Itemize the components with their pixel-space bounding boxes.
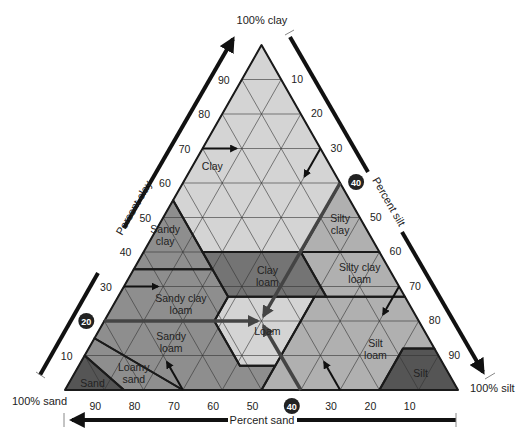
region-label-silty-clay: Siltyclay: [330, 212, 351, 236]
region-label-loam: Loam: [254, 325, 281, 337]
svg-text:40: 40: [351, 178, 361, 188]
silt-tick-70: 70: [409, 280, 421, 292]
vertex-label-silt: 100% silt: [470, 382, 515, 394]
silt-tick-30: 30: [331, 142, 343, 154]
region-label-clay-loam: Clayloam: [256, 264, 279, 288]
sand-tick-70: 70: [168, 400, 180, 412]
svg-text:40: 40: [287, 402, 297, 412]
sand-tick-90: 90: [89, 400, 101, 412]
sand-tick-60: 60: [207, 400, 219, 412]
clay-tick-30: 30: [100, 281, 112, 293]
svg-text:20: 20: [81, 317, 91, 327]
sand-tick-10: 10: [404, 400, 416, 412]
silt-tick-10: 10: [291, 73, 303, 85]
soil-texture-triangle: ClaySiltyclaySandyclayClayloamSilty clay…: [0, 0, 531, 443]
vertex-label-clay: 100% clay: [237, 14, 288, 26]
silt-tick-20: 20: [311, 107, 323, 119]
sand-tick-40: 40: [284, 398, 300, 414]
sand-tick-80: 80: [129, 400, 141, 412]
sand-axis-label: Percent sand: [230, 414, 295, 426]
region-label-silt: Silt: [413, 367, 428, 379]
clay-tick-70: 70: [179, 143, 191, 155]
sand-tick-30: 30: [325, 400, 337, 412]
clay-tick-50: 50: [139, 212, 151, 224]
clay-tick-10: 10: [61, 350, 73, 362]
clay-axis-label: Percent clay: [113, 178, 154, 237]
region-label-clay: Clay: [202, 160, 224, 172]
silt-tick-80: 80: [429, 314, 441, 326]
silt-tick-90: 90: [449, 349, 461, 361]
region-label-sandy-loam: Sandyloam: [156, 330, 187, 354]
vertex-label-sand: 100% sand: [12, 395, 67, 407]
sand-axis-arrow: Percent sand: [64, 413, 456, 427]
clay-tick-60: 60: [159, 177, 171, 189]
region-label-sand: Sand: [80, 377, 105, 389]
clay-tick-20: 20: [78, 313, 94, 329]
clay-tick-40: 40: [120, 246, 132, 258]
clay-tick-80: 80: [198, 108, 210, 120]
silt-tick-60: 60: [390, 245, 402, 257]
sand-tick-20: 20: [365, 400, 377, 412]
clay-tick-90: 90: [218, 74, 230, 86]
silt-tick-50: 50: [370, 211, 382, 223]
silt-tick-40: 40: [348, 174, 364, 190]
sand-tick-50: 50: [247, 400, 259, 412]
